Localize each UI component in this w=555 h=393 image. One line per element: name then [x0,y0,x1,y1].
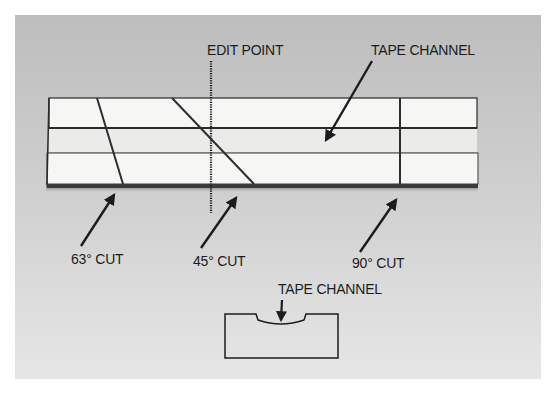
cross-section-label: TAPE CHANNEL [278,281,382,297]
block-top-rail [49,98,477,128]
cut-63-label: 63° CUT [71,251,124,267]
splicing-block-figure: EDIT POINT TAPE CHANNEL 63° CUT 45° CUT … [0,0,555,393]
cut-45-label: 45° CUT [193,253,246,269]
splicing-block [47,98,478,184]
edit-point-label: EDIT POINT [207,42,284,58]
block-bottom-rail [47,153,478,184]
tape-channel-top-label: TAPE CHANNEL [371,42,475,58]
cut-90-label: 90° CUT [352,255,405,271]
cross-section-arrow [281,300,282,320]
